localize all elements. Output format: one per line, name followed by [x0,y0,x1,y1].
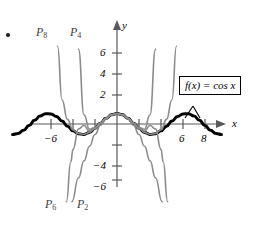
axes [30,20,226,187]
y-axis-label: y [122,20,127,31]
y-tick-label-neg6: −6 [93,181,106,192]
curve-label-p4-sub: 4 [77,31,81,40]
taylor-polynomial-figure: y x −6 6 8 6 4 2 −4 −6 P8 P4 P6 P2 f(x) … [0,0,264,225]
x-tick-label-6: 6 [179,133,185,144]
curve-label-p8: P8 [36,26,47,38]
y-tick-label-4: 4 [100,68,106,79]
curve-label-p8-sub: 8 [43,31,47,40]
x-axis-arrow [216,120,226,128]
curve-label-p4: P4 [70,26,81,38]
curve-label-p2: P2 [77,198,88,210]
x-tick-label-neg6: −6 [44,133,57,144]
x-tick-label-8: 8 [201,133,207,144]
curve-label-p6-sub: 6 [52,203,56,212]
x-axis-label: x [232,118,237,129]
y-tick-label-2: 2 [100,89,106,100]
function-callout-box: f(x) = cos x [179,76,241,95]
y-tick-label-6: 6 [100,47,106,58]
y-axis-arrow [113,20,121,30]
curve-label-p6: P6 [45,198,56,210]
curve-label-p2-sub: 2 [84,203,88,212]
y-tick-label-neg4: −4 [93,160,106,171]
